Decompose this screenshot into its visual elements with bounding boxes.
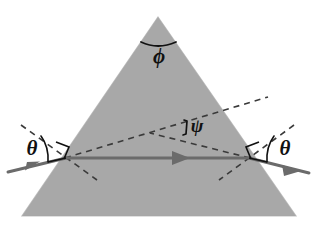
exit-ray-arrowhead — [282, 165, 301, 176]
incidence-angle-right-label: θ — [280, 136, 291, 160]
incidence-angle-left-label: θ — [27, 136, 38, 160]
prism-diagram-svg: ϕ ψ θ θ — [0, 0, 316, 230]
deviation-angle-label: ψ — [191, 115, 204, 136]
apex-angle-label: ϕ — [153, 44, 165, 68]
prism-refraction-figure: ϕ ψ θ θ — [0, 0, 316, 230]
